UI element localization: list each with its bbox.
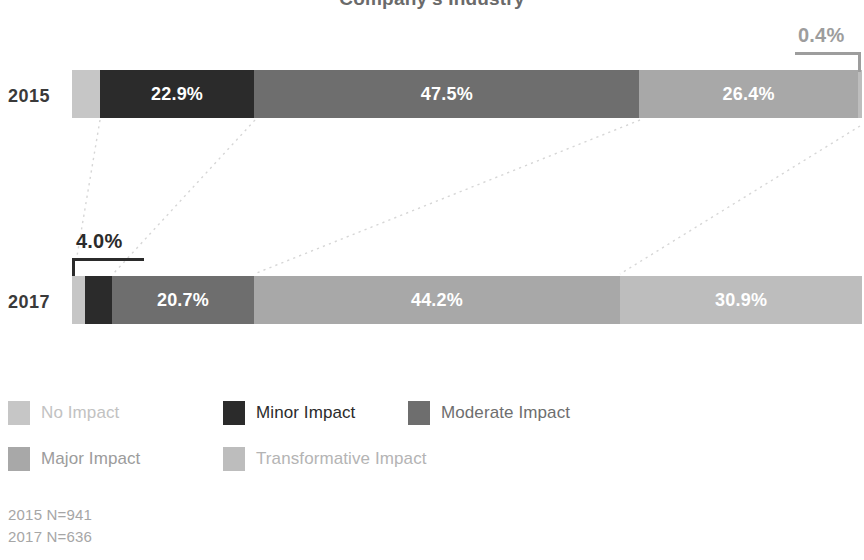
legend-label: Transformative Impact bbox=[256, 449, 427, 469]
callout-label-2015-transformative: 0.4% bbox=[798, 24, 844, 47]
footnote-line-2015: 2015 N=941 bbox=[8, 504, 92, 526]
footnote-line-2017: 2017 N=636 bbox=[8, 526, 92, 548]
chart-footnote: 2015 N=941 2017 N=636 bbox=[8, 504, 92, 548]
year-label-2015: 2015 bbox=[8, 86, 50, 107]
segment-2015-moderate: 47.5% bbox=[254, 70, 639, 118]
segment-2015-no-impact bbox=[72, 70, 100, 118]
segment-2017-transformative: 30.9% bbox=[620, 276, 862, 324]
segment-value-label: 44.2% bbox=[411, 290, 463, 311]
stacked-bar-2015: 22.9% 47.5% 26.4% bbox=[72, 70, 862, 118]
segment-2015-transformative bbox=[858, 70, 862, 118]
legend-label: Minor Impact bbox=[256, 403, 355, 423]
legend-row-2: Major Impact Transformative Impact bbox=[8, 436, 708, 482]
stacked-bar-2017: 20.7% 44.2% 30.9% bbox=[72, 276, 862, 324]
legend-item-moderate-impact[interactable]: Moderate Impact bbox=[408, 401, 570, 425]
legend-swatch-icon bbox=[223, 447, 245, 471]
segment-value-label: 30.9% bbox=[715, 290, 767, 311]
connector-minor bbox=[113, 120, 255, 274]
callout-bracket-2017 bbox=[72, 258, 144, 278]
connector-moderate bbox=[254, 120, 640, 274]
legend-item-no-impact[interactable]: No Impact bbox=[8, 401, 223, 425]
segment-2017-no-impact bbox=[72, 276, 85, 324]
legend-label: No Impact bbox=[41, 403, 119, 423]
legend-swatch-icon bbox=[8, 401, 30, 425]
chart-legend: No Impact Minor Impact Moderate Impact M… bbox=[8, 390, 708, 482]
legend-swatch-icon bbox=[223, 401, 245, 425]
segment-2017-moderate: 20.7% bbox=[112, 276, 253, 324]
segment-value-label: 47.5% bbox=[421, 84, 473, 105]
legend-label: Major Impact bbox=[41, 449, 140, 469]
segment-2015-minor: 22.9% bbox=[100, 70, 255, 118]
segment-value-label: 20.7% bbox=[157, 290, 209, 311]
callout-label-2017-no-impact: 4.0% bbox=[76, 230, 122, 253]
chart-container: Company's Industry 2015 22.9% 47.5% 26.4… bbox=[0, 0, 864, 560]
legend-item-transformative-impact[interactable]: Transformative Impact bbox=[223, 447, 427, 471]
segment-value-label: 26.4% bbox=[723, 84, 775, 105]
legend-swatch-icon bbox=[8, 447, 30, 471]
segment-value-label: 22.9% bbox=[151, 84, 203, 105]
chart-title: Company's Industry bbox=[0, 0, 864, 10]
legend-swatch-icon bbox=[408, 401, 430, 425]
connector-major bbox=[620, 126, 860, 274]
legend-item-major-impact[interactable]: Major Impact bbox=[8, 447, 223, 471]
legend-item-minor-impact[interactable]: Minor Impact bbox=[223, 401, 408, 425]
year-label-2017: 2017 bbox=[8, 292, 50, 313]
legend-label: Moderate Impact bbox=[441, 403, 570, 423]
segment-2015-major: 26.4% bbox=[639, 70, 858, 118]
segment-2017-major: 44.2% bbox=[254, 276, 621, 324]
legend-row-1: No Impact Minor Impact Moderate Impact bbox=[8, 390, 708, 436]
callout-bracket-2015 bbox=[795, 52, 861, 72]
segment-2017-minor bbox=[85, 276, 113, 324]
